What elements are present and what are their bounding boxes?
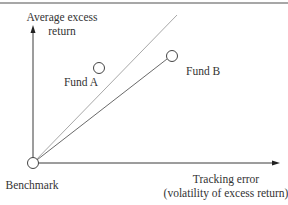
x-axis-label-line1: Tracking error — [193, 173, 259, 186]
fund-a-label: Fund A — [64, 76, 99, 88]
fund-a-point — [94, 63, 105, 74]
fund-b-point — [167, 51, 178, 62]
y-axis-arrow-icon — [31, 25, 36, 33]
risk-return-diagram: Average excess return Fund A Fund B Benc… — [0, 0, 288, 205]
fund-b-label: Fund B — [186, 65, 221, 77]
fund-a-line — [33, 15, 177, 163]
y-axis-label-line2: return — [48, 25, 76, 37]
fund-b-line — [33, 59, 167, 163]
x-axis-label-line2: (volatility of excess return) — [164, 187, 288, 200]
x-axis-arrow-icon — [272, 161, 280, 166]
benchmark-point — [28, 158, 39, 169]
benchmark-label: Benchmark — [5, 179, 58, 191]
y-axis-label-line1: Average excess — [27, 11, 99, 24]
